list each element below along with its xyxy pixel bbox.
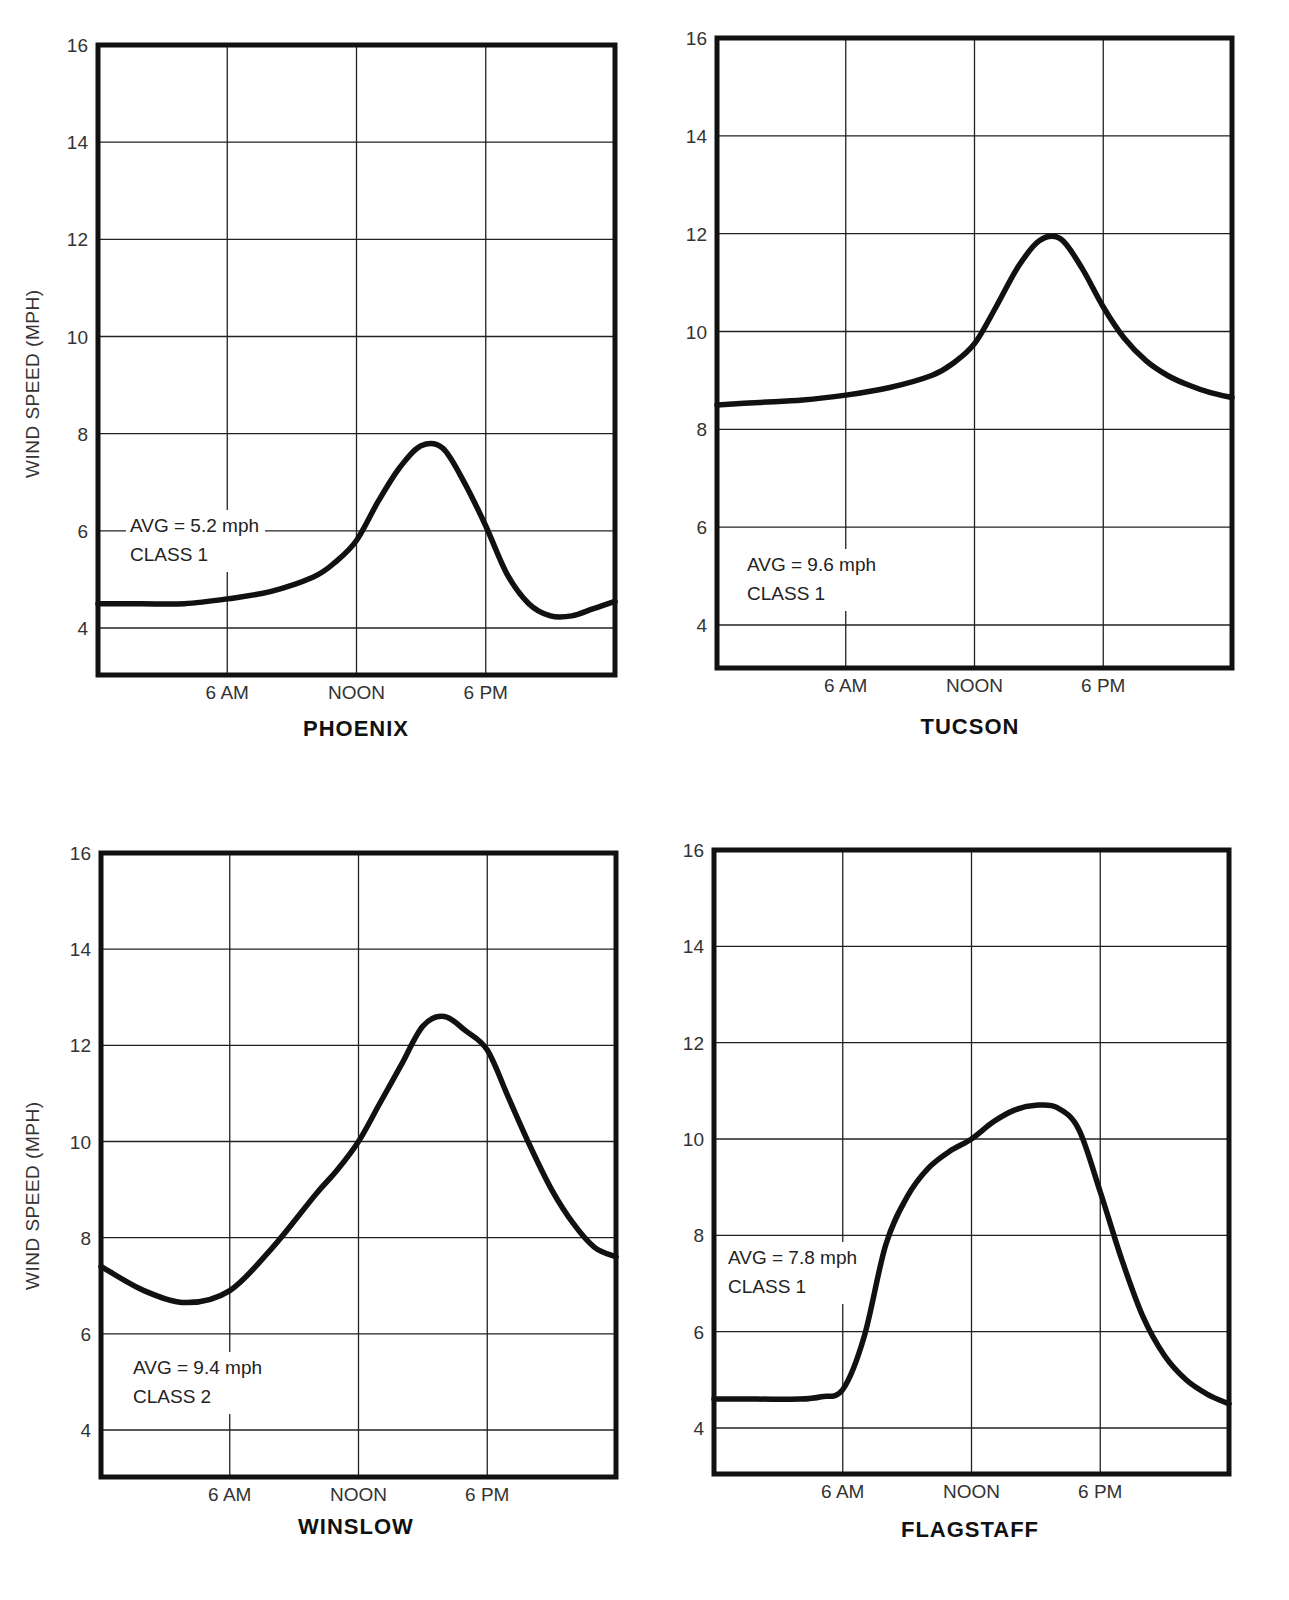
- x-tick-label: 6 AM: [824, 675, 867, 696]
- y-tick-label: 14: [67, 132, 89, 153]
- average-annotation: AVG = 9.4 mph: [133, 1357, 262, 1378]
- y-tick-label: 4: [77, 618, 88, 639]
- y-tick-label: 10: [683, 1129, 704, 1150]
- y-tick-label: 4: [696, 615, 707, 636]
- chart-phoenix: 468101214166 AMNOON6 PMAVG = 5.2 mphCLAS…: [67, 35, 615, 741]
- class-annotation: CLASS 1: [130, 544, 208, 565]
- y-tick-label: 16: [70, 843, 91, 864]
- y-tick-label: 6: [696, 517, 707, 538]
- y-tick-label: 4: [80, 1420, 91, 1441]
- y-tick-label: 8: [696, 419, 707, 440]
- y-tick-label: 14: [70, 939, 92, 960]
- chart-title: PHOENIX: [303, 716, 409, 741]
- x-tick-label: 6 PM: [465, 1484, 509, 1505]
- y-tick-label: 16: [67, 35, 88, 56]
- y-tick-label: 6: [77, 521, 88, 542]
- class-annotation: CLASS 1: [728, 1276, 806, 1297]
- y-tick-label: 4: [693, 1418, 704, 1439]
- y-tick-label: 14: [686, 126, 708, 147]
- chart-title: FLAGSTAFF: [901, 1517, 1039, 1542]
- chart-title: TUCSON: [921, 714, 1020, 739]
- x-tick-label: NOON: [943, 1481, 1000, 1502]
- y-tick-label: 12: [67, 229, 88, 250]
- x-tick-label: NOON: [946, 675, 1003, 696]
- y-tick-label: 10: [67, 327, 88, 348]
- class-annotation: CLASS 1: [747, 583, 825, 604]
- x-tick-label: 6 PM: [464, 682, 508, 703]
- y-tick-label: 10: [70, 1132, 91, 1153]
- x-tick-label: 6 AM: [206, 682, 249, 703]
- y-tick-label: 12: [70, 1035, 91, 1056]
- x-tick-label: 6 PM: [1081, 675, 1125, 696]
- y-tick-label: 14: [683, 936, 705, 957]
- chart-title: WINSLOW: [298, 1514, 414, 1539]
- y-axis-title-top: WIND SPEED (MPH): [22, 290, 44, 479]
- average-annotation: AVG = 9.6 mph: [747, 554, 876, 575]
- y-tick-label: 10: [686, 322, 707, 343]
- x-tick-label: 6 AM: [208, 1484, 251, 1505]
- x-tick-label: 6 PM: [1078, 1481, 1122, 1502]
- average-annotation: AVG = 7.8 mph: [728, 1247, 857, 1268]
- average-annotation: AVG = 5.2 mph: [130, 515, 259, 536]
- x-tick-label: 6 AM: [821, 1481, 864, 1502]
- x-tick-label: NOON: [330, 1484, 387, 1505]
- y-axis-title-bottom: WIND SPEED (MPH): [22, 1102, 44, 1291]
- y-tick-label: 6: [80, 1324, 91, 1345]
- x-tick-label: NOON: [328, 682, 385, 703]
- figure-canvas: 468101214166 AMNOON6 PMAVG = 5.2 mphCLAS…: [0, 0, 1289, 1600]
- y-tick-label: 12: [686, 224, 707, 245]
- chart-winslow: 468101214166 AMNOON6 PMAVG = 9.4 mphCLAS…: [70, 843, 616, 1539]
- class-annotation: CLASS 2: [133, 1386, 211, 1407]
- y-tick-label: 6: [693, 1322, 704, 1343]
- y-tick-label: 12: [683, 1033, 704, 1054]
- y-tick-label: 8: [693, 1225, 704, 1246]
- y-tick-label: 16: [686, 28, 707, 49]
- chart-tucson: 468101214166 AMNOON6 PMAVG = 9.6 mphCLAS…: [686, 28, 1232, 739]
- y-tick-label: 8: [80, 1228, 91, 1249]
- y-tick-label: 16: [683, 840, 704, 861]
- chart-flagstaff: 468101214166 AMNOON6 PMAVG = 7.8 mphCLAS…: [683, 840, 1229, 1542]
- y-tick-label: 8: [77, 424, 88, 445]
